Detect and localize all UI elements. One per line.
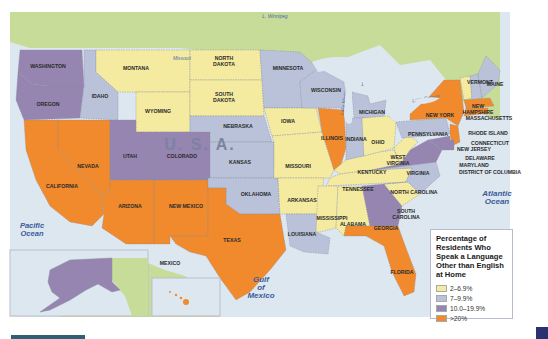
state-label-oregon: OREGON (36, 101, 59, 107)
state-label-kentucky: KENTUCKY (358, 169, 387, 175)
state-label-colorado: COLORADO (167, 153, 197, 159)
state-label-north-carolina: NORTH CAROLINA (390, 189, 438, 195)
state-label-kansas: KANSAS (229, 159, 251, 165)
state-label-wyoming: WYOMING (145, 108, 171, 114)
state-label-south-dakota: SOUTHDAKOTA (213, 91, 235, 103)
state-label-new-york: NEW YORK (426, 112, 455, 118)
state-label-virginia: VIRGINIA (406, 170, 429, 176)
state-label-district-of-columbia: DISTRICT OF COLUMBIA (459, 169, 521, 175)
legend-swatch (436, 315, 447, 322)
legend-item-c3: 10.0–19.9% (436, 303, 507, 313)
legend-swatch (436, 305, 447, 312)
state-label-iowa: IOWA (281, 118, 295, 124)
state-delaware (450, 140, 454, 150)
state-district-of-columbia (440, 146, 443, 149)
state-label-nebraska: NEBRASKA (223, 123, 253, 129)
state-label-delaware: DELAWARE (465, 155, 495, 161)
legend-label: 10.0–19.9% (450, 305, 485, 312)
state-label-minnesota: MINNESOTA (273, 65, 304, 71)
state-label-oklahoma: OKLAHOMA (241, 191, 272, 197)
water-label-pacific: PacificOcean (20, 221, 45, 238)
state-label-washington: WASHINGTON (30, 63, 66, 69)
legend: Percentage of Residents Who Speak a Lang… (430, 229, 513, 319)
state-label-ohio: OHIO (371, 139, 384, 145)
page-footer-bar (11, 335, 85, 339)
state-label-idaho: IDAHO (92, 93, 109, 99)
state-label-missouri: MISSOURI (285, 163, 311, 169)
state-label-wisconsin: WISCONSIN (311, 87, 341, 93)
state-label-california: CALIFORNIA (46, 183, 78, 189)
legend-swatch (436, 285, 447, 292)
legend-item-c1: 2–6.9% (436, 283, 507, 293)
state-label-new-mexico: NEW MEXICO (169, 203, 203, 209)
hawaii-inset (152, 278, 220, 316)
legend-swatch (436, 295, 447, 302)
state-label-maine: MAINE (487, 81, 504, 87)
state-label-michigan: MICHIGAN (359, 109, 385, 115)
state-label-rhode-island: RHODE ISLAND (468, 130, 508, 136)
state-label-pennsylvania: PENNSYLVANIA (408, 131, 448, 137)
state-label-illinois: ILLINOIS (321, 135, 343, 141)
state-label-maryland: MARYLAND (459, 162, 489, 168)
state-mississippi (316, 186, 338, 232)
state-label-indiana: INDIANA (345, 136, 367, 142)
state-label-north-dakota: NORTHDAKOTA (213, 55, 235, 67)
state-label-new-jersey: NEW JERSEY (457, 146, 492, 152)
river-label-missouri: Missouri (173, 56, 192, 61)
legend-item-c2: 7–9.9% (436, 293, 507, 303)
state-label-florida: FLORIDA (390, 269, 413, 275)
legend-label: >20% (450, 315, 467, 322)
state-label-nevada: NEVADA (77, 163, 99, 169)
page-corner-tab (536, 327, 548, 339)
legend-title: Percentage of Residents Who Speak a Lang… (436, 234, 507, 279)
canada-lake-label: L. Winnipeg (262, 14, 288, 19)
state-label-tennessee: TENNESSEE (342, 186, 374, 192)
state-label-texas: TEXAS (223, 237, 241, 243)
legend-label: 2–6.9% (450, 285, 472, 292)
state-label-georgia: GEORGIA (374, 225, 399, 231)
mexico-label: MEXICO (160, 260, 180, 266)
state-label-louisiana: LOUISIANA (288, 231, 317, 237)
state-label-massachusetts: MASSACHUSETTS (466, 115, 513, 121)
state-label-arkansas: ARKANSAS (287, 197, 317, 203)
state-label-arizona: ARIZONA (118, 203, 142, 209)
state-label-montana: MONTANA (123, 65, 149, 71)
water-label-atlantic: AtlanticOcean (481, 189, 512, 206)
legend-label: 7–9.9% (450, 295, 472, 302)
state-label-alabama: ALABAMA (340, 221, 366, 227)
country-label: U. S. A. (164, 136, 235, 153)
state-new-mexico (154, 180, 208, 244)
legend-item-c4: >20% (436, 313, 507, 323)
state-label-utah: UTAH (123, 153, 137, 159)
